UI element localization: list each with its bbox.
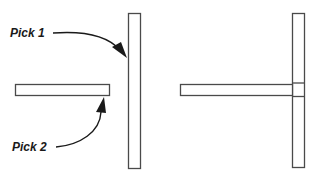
pick-2-arrow-icon [56,97,106,147]
before-panel: Pick 1 Pick 2 [10,14,141,169]
horizontal-bar-short [16,85,110,96]
vertical-boundary-bar [129,14,141,169]
pick-2-label: Pick 2 [12,140,47,154]
vertical-boundary-bar-result [293,14,305,168]
pick-1-label: Pick 1 [10,26,45,40]
pick-1-arrow-icon [53,32,127,58]
extend-diagram: Pick 1 Pick 2 [0,0,317,178]
horizontal-bar-extended [181,85,293,96]
after-panel [181,14,305,168]
